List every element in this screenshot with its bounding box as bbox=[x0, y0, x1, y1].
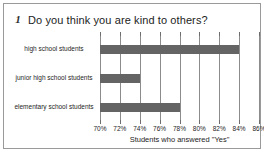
bar-chart: high school studentsjunior high school s… bbox=[12, 32, 260, 148]
plot-area bbox=[100, 36, 259, 120]
axis-tick bbox=[239, 120, 240, 124]
bottom-axis-ticks bbox=[100, 120, 259, 124]
axis-tick bbox=[219, 120, 220, 124]
axis-tick bbox=[140, 120, 141, 124]
axis-tick bbox=[160, 120, 161, 124]
category-label: elementary school students bbox=[12, 103, 96, 112]
gridline bbox=[259, 36, 260, 120]
category-label: high school students bbox=[12, 45, 96, 54]
chart-title-row: 1 Do you think you are kind to others? bbox=[8, 10, 258, 29]
gridline bbox=[239, 36, 240, 120]
axis-tick bbox=[199, 120, 200, 124]
axis-tick bbox=[120, 120, 121, 124]
x-tick-label: 86% bbox=[247, 125, 264, 132]
page-title: Do you think you are kind to others? bbox=[28, 14, 208, 26]
axis-tick bbox=[259, 120, 260, 124]
axis-tick bbox=[100, 120, 101, 124]
chart-screenshot: 1 Do you think you are kind to others? h… bbox=[0, 0, 264, 152]
x-axis-title: Students who answered "Yes" bbox=[100, 135, 259, 144]
question-number: 1 bbox=[8, 14, 28, 25]
chart-frame: 1 Do you think you are kind to others? h… bbox=[3, 3, 261, 149]
bar bbox=[100, 45, 239, 54]
bar bbox=[100, 103, 180, 112]
bar bbox=[100, 74, 140, 83]
axis-tick bbox=[180, 120, 181, 124]
category-label: junior high school students bbox=[12, 74, 96, 83]
